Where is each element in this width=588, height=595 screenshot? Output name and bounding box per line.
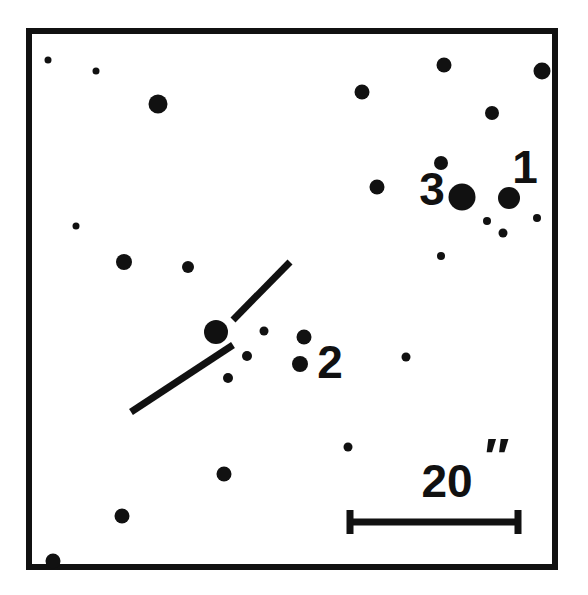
scale-bar-cap-left xyxy=(347,510,354,534)
scale-bar-unit: ″ xyxy=(485,428,510,486)
star-point xyxy=(182,261,194,273)
finder-chart-canvas: 13220″ xyxy=(0,0,588,595)
star-point xyxy=(402,353,411,362)
star-point xyxy=(46,554,61,569)
star-point xyxy=(370,180,385,195)
star-point xyxy=(355,85,370,100)
target-star-marker xyxy=(204,320,228,344)
star-point xyxy=(260,327,269,336)
star-point xyxy=(116,254,132,270)
star-point xyxy=(534,63,551,80)
star-point xyxy=(437,58,452,73)
scale-bar-cap-right xyxy=(515,510,522,534)
star-point xyxy=(217,467,232,482)
star-point xyxy=(115,509,130,524)
star-point xyxy=(449,184,476,211)
star-point xyxy=(45,57,52,64)
star-label-2: 2 xyxy=(317,336,343,388)
scale-bar-value: 20 xyxy=(421,455,472,507)
star-point xyxy=(533,214,541,222)
scale-bar-line xyxy=(350,519,518,526)
star-point xyxy=(223,373,233,383)
star-point xyxy=(499,229,508,238)
star-point xyxy=(93,68,100,75)
star-point xyxy=(149,95,168,114)
finder-chart: 13220″ xyxy=(0,0,588,595)
chart-background xyxy=(0,0,588,595)
star-label-1: 1 xyxy=(512,141,538,193)
star-point xyxy=(292,356,308,372)
star-point xyxy=(483,217,491,225)
star-point xyxy=(344,443,353,452)
star-point xyxy=(485,106,499,120)
star-point xyxy=(437,252,445,260)
star-point xyxy=(242,351,252,361)
star-label-3: 3 xyxy=(419,163,445,215)
star-point xyxy=(73,223,80,230)
star-point xyxy=(297,330,312,345)
